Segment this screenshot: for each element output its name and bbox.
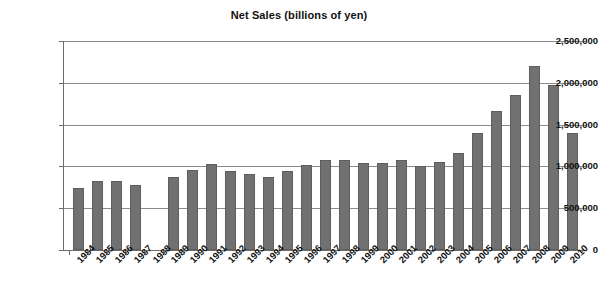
x-axis-tick	[544, 250, 545, 255]
bar-2006	[491, 111, 502, 250]
y-axis-tick-label: 2,500,000	[540, 36, 598, 46]
x-axis-tick	[373, 250, 374, 255]
x-axis-tick	[183, 250, 184, 255]
bar-1985	[92, 181, 103, 250]
x-axis-tick	[126, 250, 127, 255]
bar-1984	[73, 188, 84, 250]
x-axis-tick	[202, 250, 203, 255]
x-axis-tick	[487, 250, 488, 255]
bar-2003	[434, 162, 445, 250]
bar-1997	[320, 160, 331, 250]
gridline	[63, 83, 586, 84]
x-axis-tick	[88, 250, 89, 255]
x-axis-tick	[449, 250, 450, 255]
x-axis-tick	[164, 250, 165, 255]
chart-title: Net Sales (billions of yen)	[0, 9, 598, 22]
x-axis-tick	[278, 250, 279, 255]
bar-2001	[396, 160, 407, 250]
x-axis-tick	[525, 250, 526, 255]
bar-1987	[130, 185, 141, 250]
y-axis-tick	[59, 83, 64, 84]
bar-1986	[111, 181, 122, 250]
bar-1998	[339, 160, 350, 250]
bar-2004	[453, 153, 464, 250]
bar-2008	[529, 66, 540, 250]
bar-1996	[301, 165, 312, 250]
x-axis-tick	[69, 250, 70, 255]
y-axis-tick-label: 500,000	[540, 203, 598, 213]
x-axis-tick	[335, 250, 336, 255]
y-axis-tick	[59, 41, 64, 42]
x-axis-tick	[392, 250, 393, 255]
x-axis-tick	[411, 250, 412, 255]
bar-2007	[510, 95, 521, 250]
y-axis-tick-label: 1,000,000	[540, 161, 598, 171]
plot-area	[63, 41, 586, 250]
bar-1990	[187, 170, 198, 250]
bar-1995	[282, 171, 293, 250]
bar-1991	[206, 164, 217, 250]
x-axis-tick	[354, 250, 355, 255]
x-axis-tick	[468, 250, 469, 255]
x-axis-tick	[240, 250, 241, 255]
x-axis-tick	[506, 250, 507, 255]
y-axis-tick-label: 2,000,000	[540, 78, 598, 88]
y-axis-tick	[59, 250, 64, 251]
x-axis-tick	[107, 250, 108, 255]
bar-1999	[358, 163, 369, 250]
y-axis-tick	[59, 125, 64, 126]
x-axis-tick	[297, 250, 298, 255]
y-axis-tick-label: 1,500,000	[540, 120, 598, 130]
bar-2010	[567, 133, 578, 250]
x-axis-tick	[316, 250, 317, 255]
x-axis-tick	[145, 250, 146, 255]
bar-1993	[244, 174, 255, 250]
gridline	[63, 125, 586, 126]
y-axis-tick	[59, 166, 64, 167]
bar-2005	[472, 133, 483, 250]
bar-2002	[415, 166, 426, 250]
x-axis-tick	[221, 250, 222, 255]
y-axis-tick	[59, 208, 64, 209]
x-axis-tick	[582, 250, 583, 255]
bar-1989	[168, 177, 179, 250]
bar-1994	[263, 177, 274, 250]
x-axis-tick	[430, 250, 431, 255]
x-axis-tick	[259, 250, 260, 255]
bar-2000	[377, 163, 388, 250]
bar-1992	[225, 171, 236, 250]
x-axis-tick	[563, 250, 564, 255]
chart-container: Net Sales (billions of yen) 2,500,0002,0…	[0, 0, 598, 295]
gridline	[63, 41, 586, 42]
